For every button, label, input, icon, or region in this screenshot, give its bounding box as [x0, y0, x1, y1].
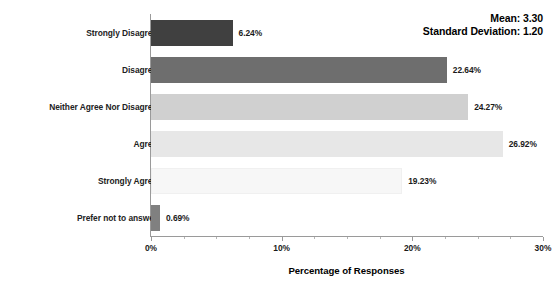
bar-wrapper: 0.69%: [151, 205, 190, 231]
bar-value-label: 26.92%: [509, 139, 537, 149]
bar: [151, 131, 503, 157]
x-axis-minor-tick: [510, 237, 511, 239]
bar-row: Prefer not to answer0.69%: [0, 199, 553, 236]
x-axis-tick-label: 20%: [404, 243, 421, 253]
bar-wrapper: 22.64%: [151, 57, 481, 83]
x-axis-minor-tick: [478, 237, 479, 239]
x-axis-tick-label: 30%: [535, 243, 552, 253]
bar-value-label: 0.69%: [166, 213, 190, 223]
x-axis-title: Percentage of Responses: [150, 265, 543, 276]
x-axis-tick-label: 0%: [145, 243, 157, 253]
x-axis-tick: [412, 237, 413, 241]
x-axis-tick: [543, 237, 544, 241]
x-axis-tick-label: 10%: [273, 243, 290, 253]
bar-row: Strongly Disagree6.24%: [0, 14, 553, 51]
x-axis-minor-tick: [347, 237, 348, 239]
bar: [151, 57, 447, 83]
bar: [151, 20, 233, 46]
x-axis-minor-tick: [184, 237, 185, 239]
x-axis-minor-tick: [314, 237, 315, 239]
x-axis-minor-tick: [380, 237, 381, 239]
x-axis-tick: [151, 237, 152, 241]
bar-row: Disagree22.64%: [0, 51, 553, 88]
bar-wrapper: 24.27%: [151, 94, 502, 120]
x-axis-minor-tick: [445, 237, 446, 239]
bar-value-label: 19.23%: [408, 176, 436, 186]
bar-value-label: 24.27%: [474, 102, 502, 112]
bar-value-label: 6.24%: [239, 28, 263, 38]
category-label: Strongly Agree: [98, 176, 157, 186]
bar-row: Agree26.92%: [0, 125, 553, 162]
bar-row: Neither Agree Nor Disagree24.27%: [0, 88, 553, 125]
bar-wrapper: 19.23%: [151, 168, 436, 194]
bar-value-label: 22.64%: [453, 65, 481, 75]
plot-area: Strongly Disagree6.24%Disagree22.64%Neit…: [0, 0, 553, 291]
bar: [151, 205, 160, 231]
bar-wrapper: 6.24%: [151, 20, 262, 46]
x-axis-minor-tick: [249, 237, 250, 239]
bar: [151, 168, 402, 194]
category-label: Neither Agree Nor Disagree: [49, 102, 157, 112]
category-label: Strongly Disagree: [86, 28, 157, 38]
category-label: Prefer not to answer: [77, 213, 157, 223]
bar-rows: Strongly Disagree6.24%Disagree22.64%Neit…: [0, 14, 553, 236]
bar-chart: Mean: 3.30 Standard Deviation: 1.20 Stro…: [0, 0, 553, 291]
bar-row: Strongly Agree19.23%: [0, 162, 553, 199]
bar: [151, 94, 468, 120]
bar-wrapper: 26.92%: [151, 131, 537, 157]
x-axis-minor-tick: [216, 237, 217, 239]
x-axis-tick: [282, 237, 283, 241]
